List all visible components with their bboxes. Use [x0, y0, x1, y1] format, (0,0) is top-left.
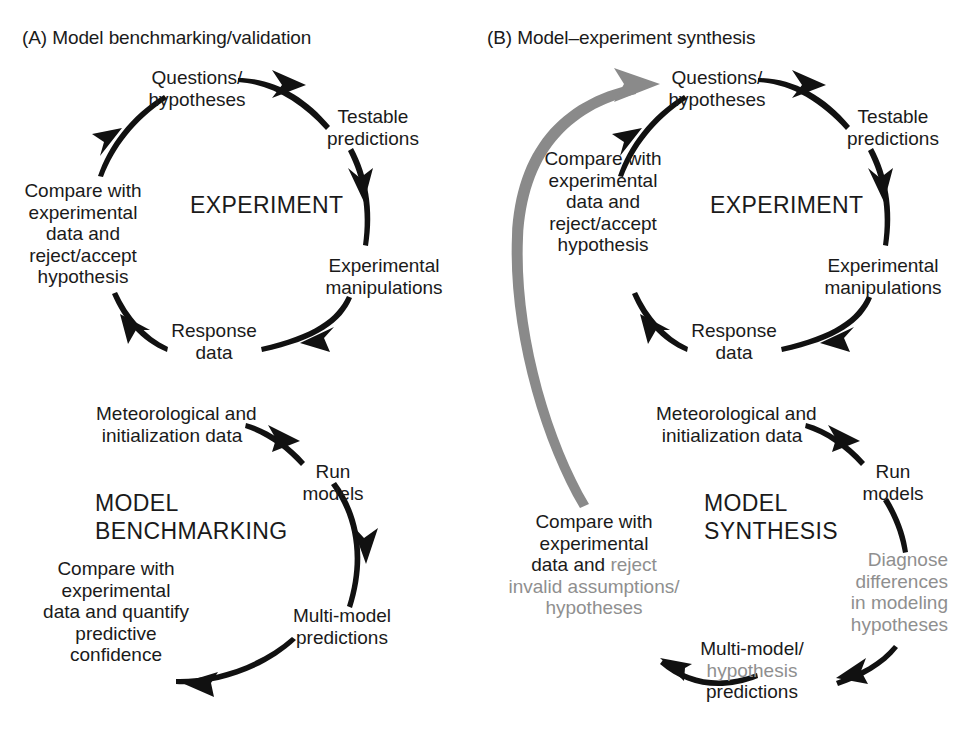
panel-b-node-run-models: Run models [854, 461, 932, 504]
panel-b-node-compare-reject-accept: Compare with experimental data and rejec… [530, 148, 676, 256]
panel-a-title: (A) Model benchmarking/validation [22, 27, 311, 49]
arrow-a-manipulations-to-response [261, 296, 352, 352]
panel-b-node-multi-model-hypothesis-predictions: Multi-model/ hypothesis predictions [690, 638, 814, 703]
panel-b-node-questions: Questions/ hypotheses [661, 67, 773, 110]
panel-b-compare-line3: data and reject [494, 554, 694, 576]
panel-a-node-testable-predictions: Testable predictions [316, 106, 430, 149]
panel-a-node-response-data: Response data [166, 320, 262, 363]
arrow-b-manipulations-to-response [781, 296, 872, 352]
panel-b-node-response-data: Response data [686, 320, 782, 363]
panel-b-node-experimental-manipulations: Experimental manipulations [815, 255, 951, 298]
arrow-b-diagnose-to-multimodel [836, 645, 898, 686]
arrow-b-testable-to-manipulations [868, 148, 893, 246]
panel-b-node-compare-reject-invalid-assumptions: Compare with experimental data and rejec… [494, 511, 694, 619]
arrow-b-response-to-compare [632, 292, 688, 352]
arrow-b-met-to-run [805, 423, 865, 466]
panel-b-hub-experiment: EXPERIMENT [710, 191, 864, 219]
panel-a-node-compare-reject-accept: Compare with experimental data and rejec… [10, 180, 156, 288]
panel-a-node-run-models: Run models [294, 461, 372, 504]
arrow-a-testable-to-manipulations [348, 148, 373, 246]
arrow-a-met-to-run [245, 423, 305, 466]
panel-a-hub-model-benchmarking: MODEL BENCHMARKING [95, 489, 288, 545]
panel-a-node-multi-model-predictions: Multi-model predictions [286, 605, 398, 648]
panel-a-node-meteorological-data: Meteorological and initialization data [96, 403, 248, 446]
arrow-b-feedback-synthesis-to-questions [512, 68, 660, 508]
panel-a-node-questions: Questions/ hypotheses [141, 67, 253, 110]
panel-a-node-compare-quantify-confidence: Compare with experimental data and quant… [34, 558, 198, 666]
panel-b-node-diagnose-differences: Diagnose differences in modeling hypothe… [838, 549, 948, 635]
arrow-b-run-to-diagnose [883, 498, 908, 553]
panel-b-hub-model-synthesis: MODEL SYNTHESIS [704, 489, 838, 545]
panel-b-title: (B) Model–experiment synthesis [487, 27, 755, 49]
panel-a-node-experimental-manipulations: Experimental manipulations [316, 255, 452, 298]
panel-b-node-testable-predictions: Testable predictions [836, 106, 950, 149]
figure-root: (A) Model benchmarking/validation EXPERI… [0, 0, 953, 731]
panel-b-node-meteorological-data: Meteorological and initialization data [656, 403, 808, 446]
arrow-a-response-to-compare [112, 292, 168, 352]
panel-a-hub-experiment: EXPERIMENT [190, 191, 344, 219]
